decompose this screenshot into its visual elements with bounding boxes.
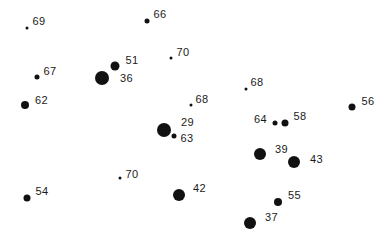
point-label: 42 bbox=[193, 183, 206, 194]
dot-marker-icon bbox=[24, 195, 31, 202]
dot-marker-icon bbox=[274, 198, 282, 206]
point-label: 55 bbox=[288, 190, 301, 201]
dot-marker-icon bbox=[288, 156, 300, 168]
point-label: 37 bbox=[265, 212, 278, 223]
point-label: 66 bbox=[154, 9, 167, 20]
point-label: 56 bbox=[362, 96, 375, 107]
point-label: 68 bbox=[251, 77, 264, 88]
dot-marker-icon bbox=[95, 71, 109, 85]
dot-marker-icon bbox=[254, 148, 266, 160]
dot-marker-icon bbox=[173, 189, 185, 201]
point-label: 58 bbox=[294, 111, 307, 122]
point-label: 39 bbox=[275, 144, 288, 155]
point-label: 68 bbox=[196, 94, 209, 105]
point-label: 67 bbox=[44, 66, 57, 77]
point-label: 54 bbox=[36, 186, 49, 197]
dot-marker-icon bbox=[145, 19, 150, 24]
point-label: 70 bbox=[126, 169, 139, 180]
dot-map-canvas: 6966705167366268685664582963394370544255… bbox=[0, 0, 391, 239]
dot-marker-icon bbox=[21, 101, 29, 109]
dot-marker-icon bbox=[282, 120, 289, 127]
dot-marker-icon bbox=[172, 134, 177, 139]
dot-marker-icon bbox=[35, 75, 40, 80]
dot-marker-icon bbox=[273, 121, 278, 126]
point-label: 43 bbox=[310, 154, 323, 165]
point-label: 62 bbox=[35, 95, 48, 106]
point-label: 36 bbox=[120, 73, 133, 84]
point-label: 63 bbox=[181, 133, 194, 144]
point-label: 51 bbox=[126, 55, 139, 66]
point-label: 64 bbox=[254, 114, 267, 125]
dot-marker-icon bbox=[349, 104, 356, 111]
dot-marker-icon bbox=[170, 57, 173, 60]
dot-marker-icon bbox=[119, 177, 122, 180]
dot-marker-icon bbox=[244, 217, 256, 229]
dot-marker-icon bbox=[190, 104, 193, 107]
dot-marker-icon bbox=[26, 27, 29, 30]
dot-marker-icon bbox=[111, 62, 120, 71]
point-label: 29 bbox=[181, 117, 194, 128]
dot-marker-icon bbox=[245, 88, 248, 91]
point-label: 69 bbox=[33, 16, 46, 27]
point-label: 70 bbox=[177, 47, 190, 58]
dot-marker-icon bbox=[157, 123, 171, 137]
